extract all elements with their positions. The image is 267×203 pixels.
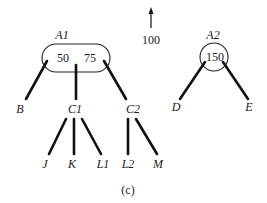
figure-caption: (c) (121, 183, 134, 197)
node-a2-key: 150 (206, 50, 224, 64)
tree-diagram: 100 A1 50 75 A2 150 B C1 C2 D E J K L1 L… (0, 0, 267, 203)
node-label-c1: C1 (68, 102, 82, 116)
node-label-a2: A2 (205, 28, 219, 42)
node-a1-key-1: 50 (57, 51, 69, 65)
node-label-j: J (42, 157, 48, 171)
up-arrow (149, 7, 154, 28)
edge-a2-e (223, 62, 248, 99)
edge-a1-c2 (104, 61, 126, 99)
node-label-a1: A1 (54, 28, 68, 42)
node-label-m: M (152, 157, 164, 171)
node-label-l1: L1 (96, 157, 110, 171)
node-a1-key-2: 75 (84, 51, 96, 65)
node-label-d: D (171, 100, 181, 114)
edge-a1-b (26, 61, 47, 99)
arrow-label: 100 (142, 33, 160, 47)
node-label-l2: L2 (121, 157, 135, 171)
edge-a2-d (180, 62, 205, 99)
node-label-e: E (244, 100, 253, 114)
edge-c1-j (49, 119, 66, 154)
arrow-head-icon (149, 7, 154, 14)
node-label-b: B (16, 102, 24, 116)
edge-c2-m (136, 119, 157, 154)
node-label-c2: C2 (126, 102, 140, 116)
edge-c1-l1 (82, 119, 101, 154)
node-label-k: K (67, 157, 77, 171)
